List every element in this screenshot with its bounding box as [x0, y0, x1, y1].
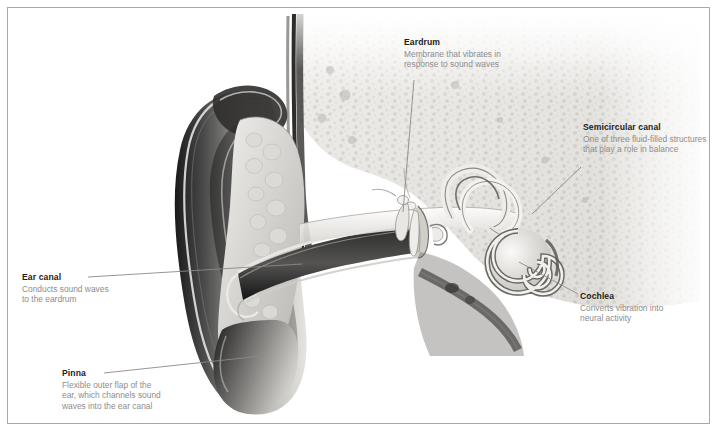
label-pinna-title: Pinna — [62, 368, 161, 379]
label-pinna-description: Flexible outer flap of the ear, which ch… — [62, 380, 161, 412]
label-cochlea: Cochlea Converts vibration into neural a… — [580, 291, 663, 324]
label-semicircular-canal: Semicircular canal One of three fluid-fi… — [583, 122, 706, 155]
label-ear-canal-title: Ear canal — [22, 272, 109, 283]
label-eardrum-description: Membrane that vibrates in response to so… — [404, 49, 501, 70]
label-cochlea-description: Converts vibration into neural activity — [580, 303, 663, 324]
ear-anatomy-figure: Eardrum Membrane that vibrates in respon… — [0, 0, 724, 443]
label-semicircular-canal-title: Semicircular canal — [583, 122, 706, 133]
label-eardrum-title: Eardrum — [404, 37, 501, 48]
label-ear-canal: Ear canal Conducts sound waves to the ea… — [22, 272, 109, 305]
label-pinna: Pinna Flexible outer flap of the ear, wh… — [62, 368, 161, 411]
cut-off-caption-strip — [10, 430, 710, 443]
label-semicircular-canal-description: One of three fluid-filled structures tha… — [583, 134, 706, 155]
label-ear-canal-description: Conducts sound waves to the eardrum — [22, 284, 109, 305]
label-eardrum: Eardrum Membrane that vibrates in respon… — [404, 37, 501, 70]
label-cochlea-title: Cochlea — [580, 291, 663, 302]
